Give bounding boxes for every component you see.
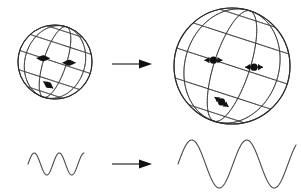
transition-arrow-bottom [112, 160, 152, 169]
sphere-meridian-front [24, 26, 66, 98]
marker-dot [45, 82, 51, 88]
marker-arrow-head [245, 64, 250, 70]
sphere-parallel-front [189, 105, 244, 123]
arrow-head [139, 60, 152, 69]
sphere-meridian-back [184, 9, 248, 121]
sphere-parallel-front [20, 51, 90, 74]
sphere-parallel-front [220, 9, 275, 27]
arrow-head [139, 160, 152, 169]
sphere-parallel-front [28, 87, 63, 98]
marker-dot [250, 64, 257, 71]
marker-arrow-head [258, 64, 263, 70]
marker-3 [43, 82, 53, 89]
diagram-canvas [0, 0, 301, 196]
marker-dot [218, 98, 225, 105]
sphere-meridian-front [184, 9, 250, 121]
wave-after [178, 140, 296, 188]
sphere-parallel-front [177, 48, 287, 84]
marker-3 [215, 97, 229, 107]
sphere-after [174, 8, 290, 124]
sphere-before [18, 25, 92, 99]
sphere-meridian-front [39, 27, 66, 98]
marker-dot [210, 57, 217, 64]
sphere-parallel-front [193, 23, 289, 54]
wave-before [28, 153, 84, 175]
expansion-diagram [0, 0, 301, 196]
sphere-parallel-front [47, 26, 82, 37]
marker-dot [40, 55, 46, 61]
sphere-meridian-front [207, 11, 250, 122]
marker-2 [245, 64, 263, 71]
wave-curve [178, 140, 296, 188]
transition-arrow-top [112, 60, 152, 69]
marker-dot [66, 60, 72, 66]
wave-curve [28, 153, 84, 175]
